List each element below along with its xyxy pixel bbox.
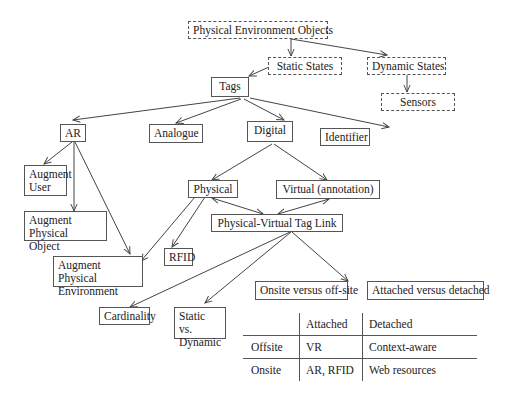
node-cardinality: Cardinality (99, 307, 150, 325)
node-static-states: Static States (268, 57, 342, 75)
node-label-line2: Object (29, 240, 60, 252)
node-label: Physical-Virtual Tag Link (217, 217, 336, 229)
node-dynamic-states: Dynamic States (367, 57, 446, 75)
node-label: Physical (194, 183, 233, 195)
node-static-vs-dynamic: Static vs. Dynamic (174, 307, 226, 339)
table-header-cell (243, 313, 300, 336)
node-augment-physical-object: Augment Physical Object (24, 211, 107, 241)
node-label-line2: User (29, 181, 51, 193)
node-digital: Digital (247, 121, 293, 142)
node-sensors: Sensors (381, 93, 455, 111)
node-onsite-versus-offsite: Onsite versus off-site (255, 281, 348, 300)
node-label: Cardinality (104, 310, 156, 322)
node-label: AR (65, 127, 81, 139)
node-analogue: Analogue (149, 124, 203, 143)
table-header-cell: Detached (363, 313, 478, 336)
table-header-cell: Attached (300, 313, 363, 336)
node-label-line1: Static vs. (179, 310, 205, 335)
table-row: Offsite VR Context-aware (243, 336, 477, 359)
node-label: Sensors (400, 96, 436, 108)
node-physical: Physical (188, 180, 238, 198)
table-header-row: Attached Detached (243, 313, 477, 336)
node-label: Physical Environment Objects (193, 24, 333, 36)
table-cell: VR (300, 336, 363, 359)
node-label: Static States (277, 60, 334, 72)
node-attached-versus-detached: Attached versus detached (367, 281, 484, 300)
node-label: Dynamic States (372, 60, 445, 72)
node-label: Digital (254, 124, 286, 136)
table-cell: Offsite (243, 336, 300, 359)
node-virtual-annotation: Virtual (annotation) (276, 180, 380, 199)
node-tags: Tags (211, 77, 249, 97)
node-label: Analogue (154, 127, 199, 139)
attachment-location-table: Attached Detached Offsite VR Context-awa… (243, 313, 477, 381)
node-label-line1: Augment (29, 168, 72, 180)
node-label: Onsite versus off-site (260, 284, 358, 296)
node-label: Attached versus detached (372, 284, 490, 296)
node-physical-environment-objects: Physical Environment Objects (188, 21, 328, 39)
node-label-line1: Augment Physical (58, 259, 101, 284)
node-rfid: RFID (164, 248, 193, 266)
node-label-line2: Environment (58, 285, 118, 297)
node-identifier: Identifier (320, 128, 370, 146)
node-physical-virtual-tag-link: Physical-Virtual Tag Link (211, 214, 343, 232)
table-row: Onsite AR, RFID Web resources (243, 359, 477, 382)
node-label: Identifier (325, 131, 368, 143)
node-label: Virtual (annotation) (283, 183, 374, 195)
node-label: Tags (219, 80, 241, 92)
node-label: RFID (169, 251, 195, 263)
table-cell: Web resources (363, 359, 478, 382)
node-label-line2: Dynamic (179, 336, 221, 348)
node-ar: AR (60, 124, 86, 142)
node-label-line1: Augment Physical (29, 214, 72, 239)
taxonomy-diagram: Physical Environment Objects Static Stat… (0, 0, 507, 399)
table-cell: Onsite (243, 359, 300, 382)
node-augment-user: Augment User (24, 165, 67, 196)
node-augment-physical-environment: Augment Physical Environment (53, 256, 143, 287)
table-cell: Context-aware (363, 336, 478, 359)
table-cell: AR, RFID (300, 359, 363, 382)
